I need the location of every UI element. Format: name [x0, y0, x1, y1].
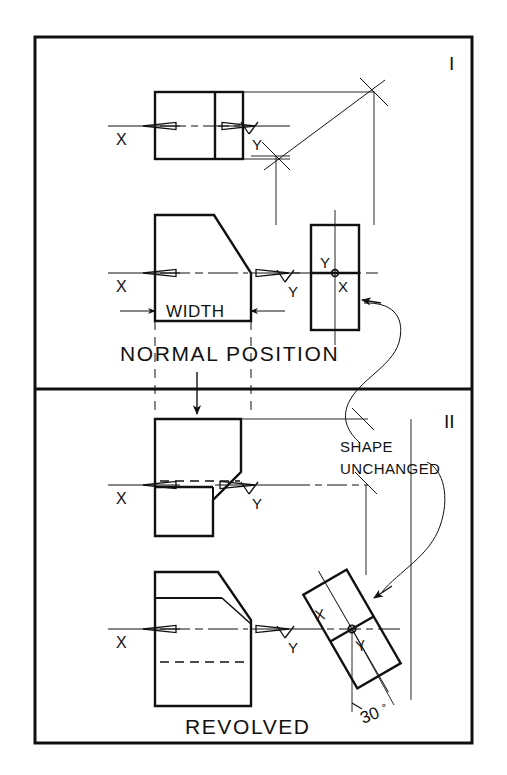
axis-label-y-top-revolved: Y — [252, 495, 262, 512]
axis-label-x-side-normal: X — [338, 278, 348, 295]
axis-label-y-top-normal: Y — [252, 136, 262, 153]
axis-label-y-front-revolved: Y — [288, 639, 298, 656]
technical-drawing-page: X Y X Y WI — [0, 0, 507, 775]
axis-point-dot-side-normal — [334, 272, 336, 274]
axis-label-x-front-revolved: X — [116, 634, 127, 651]
axis-label-y-front-normal: Y — [288, 283, 298, 300]
axis-label-x-top-normal: X — [116, 131, 127, 148]
width-label: WIDTH — [166, 302, 225, 321]
panel-1-numeral: I — [449, 53, 454, 74]
panel-2-caption: REVOLVED — [185, 715, 311, 738]
panel-1-numeral-group: I — [449, 53, 454, 74]
axis-label-y-side-normal: Y — [320, 254, 330, 271]
shape-label: SHAPE — [340, 438, 393, 455]
panel-2-numeral: II — [444, 411, 455, 432]
unchanged-label: UNCHANGED — [340, 460, 440, 477]
axis-label-x-top-revolved: X — [116, 490, 127, 507]
panel-1-caption: NORMAL POSITION — [120, 342, 339, 365]
axis-label-x-front-normal: X — [116, 278, 127, 295]
drawing-sheet: X Y X Y WI — [0, 0, 507, 775]
